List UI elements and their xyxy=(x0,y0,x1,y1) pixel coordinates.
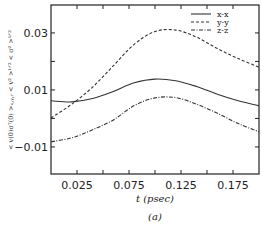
series-line-y-y xyxy=(51,29,259,117)
x-axis-label: t (psec) xyxy=(136,193,174,204)
x-tick-label: 0.175 xyxy=(217,179,249,192)
x-tick-label: 0.125 xyxy=(165,179,197,192)
x-tick-label: 0.075 xyxy=(113,179,145,192)
y-axis-label: < v(0)σᵀ(0) >ₓ,ᵧ,ᵣ < v² >¹ᐟ² < σ² >¹ᐟ² xyxy=(7,30,15,150)
y-tick-label: 0.01 xyxy=(24,84,49,97)
legend-label: z-z xyxy=(217,26,228,35)
line-chart: 0.0250.0750.1250.175 0.030.01−0.01 x-xy-… xyxy=(0,0,262,225)
data-series xyxy=(51,29,259,141)
figure-caption: (a) xyxy=(148,211,162,222)
series-line-z-z xyxy=(51,97,259,142)
y-tick-label: −0.01 xyxy=(14,141,48,154)
legend: x-xy-yz-z xyxy=(191,10,229,35)
x-tick-label: 0.025 xyxy=(61,179,93,192)
series-line-x-x xyxy=(51,79,259,106)
y-tick-label: 0.03 xyxy=(24,27,49,40)
